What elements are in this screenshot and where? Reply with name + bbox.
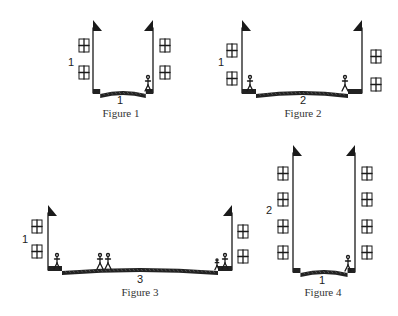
width-ratio-label: 1: [117, 94, 123, 106]
window-icon: [278, 167, 288, 180]
window-icon: [362, 246, 372, 259]
flag-icon: [48, 205, 57, 216]
flag-icon: [346, 145, 355, 156]
height-ratio-label: 1: [218, 56, 224, 68]
window-icon: [238, 250, 248, 263]
person-icon: [97, 254, 103, 270]
width-ratio-label: 1: [319, 274, 325, 286]
flag-icon: [242, 20, 251, 31]
width-ratio-label: 2: [300, 94, 306, 106]
window-icon: [371, 50, 381, 63]
flag-icon: [293, 145, 302, 156]
window-icon: [278, 246, 288, 259]
window-icon: [160, 66, 170, 79]
person-icon: [247, 76, 253, 92]
figure-1: 11Figure 1: [68, 20, 170, 119]
flag-icon: [223, 205, 232, 216]
flag-icon: [144, 20, 153, 31]
person-icon: [105, 254, 111, 270]
person-icon: [145, 76, 151, 92]
figure-4: 21Figure 4: [266, 145, 372, 298]
window-icon: [227, 72, 237, 85]
person-icon: [342, 76, 348, 92]
figure-2: 12Figure 2: [218, 20, 381, 119]
figure-caption: Figure 2: [285, 107, 322, 119]
height-ratio-label: 1: [22, 233, 28, 245]
window-icon: [362, 220, 372, 233]
window-icon: [32, 220, 42, 233]
flag-icon: [353, 20, 362, 31]
window-icon: [227, 44, 237, 57]
window-icon: [362, 167, 372, 180]
width-ratio-label: 3: [137, 273, 143, 285]
person-icon: [215, 259, 219, 270]
height-ratio-label: 1: [68, 56, 74, 68]
window-icon: [160, 39, 170, 52]
street-proportion-diagrams: 11Figure 112Figure 213Figure 321Figure 4: [0, 0, 398, 316]
figure-caption: Figure 1: [103, 107, 140, 119]
window-icon: [238, 225, 248, 238]
window-icon: [32, 245, 42, 258]
window-icon: [79, 66, 89, 79]
window-icon: [278, 220, 288, 233]
window-icon: [371, 78, 381, 91]
flag-icon: [93, 20, 102, 31]
figure-caption: Figure 3: [122, 286, 159, 298]
window-icon: [362, 193, 372, 206]
window-icon: [79, 39, 89, 52]
figure-caption: Figure 4: [305, 286, 342, 298]
figure-3: 13Figure 3: [22, 205, 248, 298]
height-ratio-label: 2: [266, 204, 272, 216]
window-icon: [278, 193, 288, 206]
